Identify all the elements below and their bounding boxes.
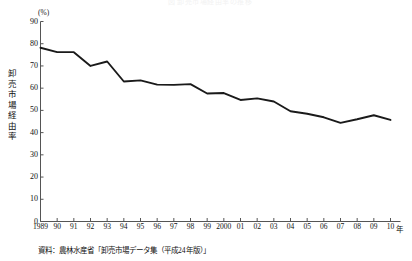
data-line-wholesale-market-rate: [41, 48, 391, 123]
source-note: 資料：農林水産省「卸売市場データ集（平成24年版）」: [38, 244, 210, 255]
plot-area: [0, 0, 412, 261]
chart-figure: 図 卸売市場経由率の推移 (%) 卸 売 市 場 経 由 率 010203040…: [0, 0, 412, 261]
